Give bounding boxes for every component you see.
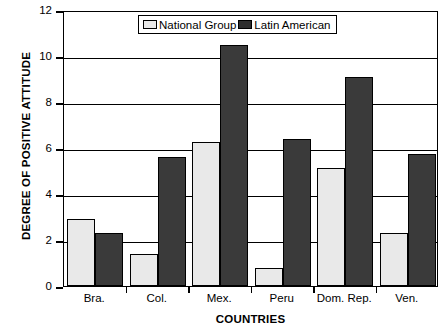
- chart-legend: National Group Latin American: [138, 15, 337, 34]
- bar-national-group: [317, 168, 345, 286]
- bar-latin-american: [345, 77, 373, 286]
- bar-latin-american: [283, 139, 311, 286]
- bar-latin-american: [408, 154, 436, 286]
- legend-swatch-icon-national-group: [143, 20, 157, 29]
- y-axis-tick-mark: [56, 11, 63, 13]
- y-axis-tick-mark: [56, 287, 63, 289]
- bar-national-group: [130, 254, 158, 286]
- bar-latin-american: [158, 157, 186, 286]
- bar-series-container: [64, 12, 437, 286]
- legend-entry-latin-american: Latin American: [238, 19, 332, 31]
- bar-national-group: [67, 219, 95, 286]
- x-axis-tick-label: Ven.: [376, 292, 439, 304]
- legend-entry-national-group: National Group: [143, 19, 238, 31]
- y-axis-tick-mark: [56, 149, 63, 151]
- y-axis-tick-label: 10: [6, 51, 52, 63]
- bar-chart-figure: DEGREE OF POSITIVE ATTITUDE 024681012 Br…: [0, 0, 446, 332]
- y-axis-tick-mark: [56, 57, 63, 59]
- y-axis-tick-label: 6: [6, 143, 52, 155]
- x-axis-tick-label: Bra.: [63, 292, 126, 304]
- y-axis-tick-label: 12: [6, 5, 52, 17]
- bar-latin-american: [220, 45, 248, 287]
- x-axis-tick-label: Mex.: [188, 292, 251, 304]
- x-axis-tick-label: Peru: [251, 292, 314, 304]
- x-axis-title: COUNTRIES: [63, 313, 438, 325]
- legend-label-national-group: National Group: [159, 19, 238, 31]
- y-axis-tick-mark: [56, 241, 63, 243]
- y-axis-tick-label: 8: [6, 97, 52, 109]
- plot-area: [63, 11, 438, 287]
- x-axis-tick-label: Col.: [126, 292, 189, 304]
- x-axis-tick-label: Dom. Rep.: [313, 292, 376, 304]
- legend-swatch-icon-latin-american: [238, 20, 252, 29]
- y-axis-tick-label: 0: [6, 281, 52, 293]
- bar-national-group: [192, 142, 220, 286]
- bar-latin-american: [95, 233, 123, 286]
- y-axis-tick-label: 2: [6, 235, 52, 247]
- y-axis-tick-label: 4: [6, 189, 52, 201]
- y-axis-tick-mark: [56, 195, 63, 197]
- legend-label-latin-american: Latin American: [254, 19, 332, 31]
- bar-national-group: [380, 233, 408, 286]
- y-axis-tick-mark: [56, 103, 63, 105]
- bar-national-group: [255, 268, 283, 286]
